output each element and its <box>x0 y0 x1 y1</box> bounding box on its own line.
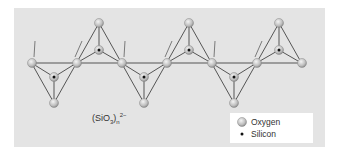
oxygen-atom <box>185 19 194 28</box>
oxygen-atom <box>95 19 104 28</box>
silicon-atom <box>98 49 101 52</box>
silicon-atom <box>278 49 281 52</box>
oxygen-atom <box>73 59 82 68</box>
silicon-atom <box>53 76 56 79</box>
oxygen-atom <box>163 59 172 68</box>
oxygen-atom <box>275 19 284 28</box>
oxygen-atom <box>230 99 239 108</box>
oxygen-atom <box>140 99 149 108</box>
legend-item-silicon: Silicon <box>230 128 313 140</box>
silicon-atom <box>143 76 146 79</box>
silicon-atom <box>233 76 236 79</box>
oxygen-atom <box>253 59 262 68</box>
oxygen-atom <box>208 59 217 68</box>
formula-label: (SiO3)n2− <box>92 112 127 125</box>
oxygen-atom-icon <box>235 116 249 128</box>
silicon-atom-icon <box>235 128 249 140</box>
legend-item-oxygen: Oxygen <box>230 116 313 128</box>
oxygen-atom <box>118 59 127 68</box>
oxygen-atom <box>28 59 37 68</box>
silicon-atom <box>188 49 191 52</box>
oxygen-atom <box>298 59 307 68</box>
oxygen-atom <box>50 99 59 108</box>
arrows <box>34 41 262 57</box>
legend: Oxygen Silicon <box>230 113 313 143</box>
